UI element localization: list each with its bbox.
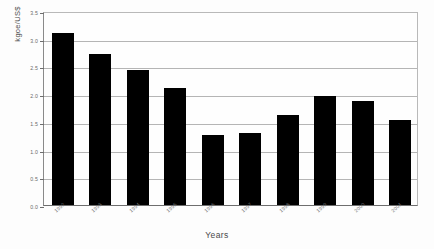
bar [127, 11, 149, 205]
bar-rect [389, 120, 411, 205]
y-axis-title: kgoe/US$ [13, 0, 22, 66]
bar-series [44, 13, 417, 205]
x-axis-title: Years [0, 230, 434, 240]
plot-area: 0.00.51.01.52.02.53.03.5 [43, 12, 418, 206]
bar-rect [314, 96, 336, 205]
y-tick-label: 0.5 [30, 176, 38, 182]
y-tick-label: 1.0 [30, 149, 38, 155]
y-tick-label: 0.0 [30, 204, 38, 210]
y-tick-label: 2.5 [30, 65, 38, 71]
y-tick-label: 3.5 [30, 10, 38, 16]
bar [89, 11, 111, 205]
bar [52, 11, 74, 205]
bar [314, 11, 336, 205]
bar-rect [202, 135, 224, 205]
bar-rect [127, 70, 149, 205]
bar [202, 11, 224, 205]
bar-rect [164, 88, 186, 206]
bar-rect [352, 101, 374, 205]
bar-rect [52, 33, 74, 205]
bar [164, 11, 186, 205]
y-tick-label: 2.0 [30, 93, 38, 99]
y-tick-label: 1.5 [30, 121, 38, 127]
bar-rect [277, 115, 299, 205]
bar-rect [89, 54, 111, 205]
y-tick-mark [40, 207, 44, 208]
chart-figure: kgoe/US$ 0.00.51.01.52.02.53.03.5 199219… [0, 0, 434, 249]
bar [352, 11, 374, 205]
bar [239, 11, 261, 205]
bar-rect [239, 133, 261, 205]
bar [277, 11, 299, 205]
bar [389, 11, 411, 205]
y-tick-label: 3.0 [30, 38, 38, 44]
